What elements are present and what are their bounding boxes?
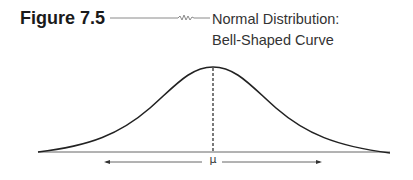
mean-label: μ <box>208 153 218 166</box>
figure-title: Normal Distribution: Bell-Shaped Curve <box>212 9 339 51</box>
figure-title-line-2: Bell-Shaped Curve <box>212 30 339 51</box>
right-arrow <box>222 160 322 164</box>
left-arrow <box>104 160 202 164</box>
figure-title-line-1: Normal Distribution: <box>212 9 339 30</box>
bell-curve <box>38 67 390 153</box>
figure-graphic <box>0 0 413 180</box>
title-connector-line <box>110 15 210 20</box>
